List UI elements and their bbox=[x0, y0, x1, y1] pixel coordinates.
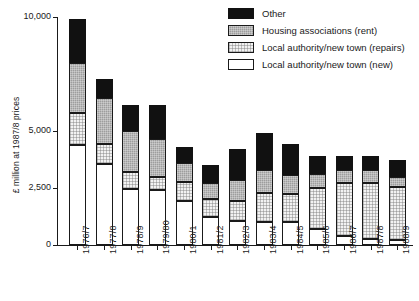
bar-segment-repairs bbox=[149, 177, 166, 191]
x-tick-mark bbox=[184, 246, 185, 250]
bar-segment-ha bbox=[229, 180, 246, 201]
bar-segment-other bbox=[229, 149, 246, 180]
x-axis-label-1977-8: 1977/8 bbox=[108, 225, 118, 254]
bar-segment-ha bbox=[282, 175, 299, 193]
bar-segment-ha bbox=[202, 183, 219, 199]
bar-segment-repairs bbox=[122, 172, 139, 189]
bar-segment-repairs bbox=[202, 199, 219, 216]
x-axis-label-1986-7: 1986/7 bbox=[348, 225, 358, 254]
y-tick-label: 5,000 bbox=[28, 125, 51, 135]
bar-1977-8 bbox=[96, 79, 113, 245]
bar-segment-other bbox=[336, 156, 353, 170]
x-tick-mark bbox=[77, 246, 78, 250]
bar-segment-ha bbox=[69, 63, 86, 113]
bar-segment-other bbox=[389, 160, 406, 177]
y-axis-title: £ million at 1987/8 prices bbox=[11, 55, 21, 235]
x-tick-mark bbox=[291, 246, 292, 250]
bar-segment-ha bbox=[149, 139, 166, 177]
x-axis-label-1982-3: 1982/3 bbox=[241, 225, 251, 254]
bar-segment-repairs bbox=[229, 201, 246, 222]
x-tick-mark bbox=[131, 246, 132, 250]
x-tick-mark bbox=[104, 246, 105, 250]
bar-segment-other bbox=[149, 105, 166, 139]
bar-segment-repairs bbox=[69, 113, 86, 145]
x-axis-label-1981-2: 1981/2 bbox=[215, 225, 225, 254]
bar-segment-other bbox=[69, 19, 86, 62]
x-tick-mark bbox=[317, 246, 318, 250]
x-tick-mark bbox=[397, 246, 398, 250]
y-tick-label: 0 bbox=[46, 239, 51, 249]
x-tick-mark bbox=[344, 246, 345, 250]
bar-1976-7 bbox=[69, 19, 86, 245]
bar-segment-repairs bbox=[256, 193, 273, 223]
bar-segment-other bbox=[282, 144, 299, 176]
bar-segment-repairs bbox=[176, 182, 193, 200]
x-axis-label-1979-80: 1979/80 bbox=[161, 220, 171, 254]
legend-swatch-housing-associations-icon bbox=[228, 25, 254, 36]
bar-segment-repairs bbox=[96, 144, 113, 165]
x-axis-label-1983-4: 1983/4 bbox=[268, 225, 278, 254]
x-tick-mark bbox=[264, 246, 265, 250]
x-axis-label-1978-9: 1978/9 bbox=[135, 225, 145, 254]
x-tick-mark bbox=[211, 246, 212, 250]
legend-item-housing-associations: Housing associations (rent) bbox=[228, 23, 418, 38]
x-tick-mark bbox=[157, 246, 158, 250]
bar-segment-ha bbox=[176, 163, 193, 182]
legend-item-new: Local authority/new town (new) bbox=[228, 57, 418, 72]
stacked-bar-chart: £ million at 1987/8 prices 02,5005,00010… bbox=[0, 0, 419, 301]
chart-legend: Other Housing associations (rent) Local … bbox=[228, 6, 418, 74]
bar-segment-ha bbox=[309, 174, 326, 188]
bar-segment-other bbox=[309, 156, 326, 174]
legend-item-other: Other bbox=[228, 6, 418, 21]
legend-label-new: Local authority/new town (new) bbox=[262, 59, 393, 70]
bar-segment-ha bbox=[336, 170, 353, 184]
legend-label-housing-associations: Housing associations (rent) bbox=[262, 25, 377, 36]
legend-label-repairs: Local authority/new town (repairs) bbox=[262, 42, 405, 53]
bar-segment-other bbox=[122, 105, 139, 131]
bar-segment-ha bbox=[389, 177, 406, 187]
x-axis-label-1987-8: 1987/8 bbox=[375, 225, 385, 254]
bar-segment-other bbox=[176, 147, 193, 163]
legend-swatch-other-icon bbox=[228, 8, 254, 19]
bar-segment-other bbox=[256, 133, 273, 169]
legend-swatch-new-icon bbox=[228, 59, 254, 70]
y-tick-label: 10,000 bbox=[23, 11, 51, 21]
bar-segment-repairs bbox=[309, 188, 326, 229]
bar-segment-other bbox=[96, 79, 113, 98]
y-tick-label: 2,500 bbox=[28, 182, 51, 192]
legend-label-other: Other bbox=[262, 8, 286, 19]
bar-segment-other bbox=[362, 156, 379, 170]
bar-segment-other bbox=[202, 165, 219, 183]
x-tick-mark bbox=[237, 246, 238, 250]
legend-swatch-repairs-icon bbox=[228, 42, 254, 53]
bar-segment-ha bbox=[256, 170, 273, 193]
x-axis-label-1988-9: 1988/9 bbox=[401, 225, 411, 254]
bar-segment-repairs bbox=[282, 194, 299, 223]
x-axis-label-1984-5: 1984/5 bbox=[295, 225, 305, 254]
x-axis-label-1985-6: 1985/6 bbox=[321, 225, 331, 254]
x-axis-label-1980-1: 1980/1 bbox=[188, 225, 198, 254]
x-tick-mark bbox=[371, 246, 372, 250]
bar-segment-ha bbox=[122, 131, 139, 172]
bar-segment-ha bbox=[96, 98, 113, 144]
legend-item-repairs: Local authority/new town (repairs) bbox=[228, 40, 418, 55]
bar-segment-ha bbox=[362, 170, 379, 184]
bar-1978-9 bbox=[122, 105, 139, 245]
x-axis-label-1976-7: 1976/7 bbox=[81, 225, 91, 254]
